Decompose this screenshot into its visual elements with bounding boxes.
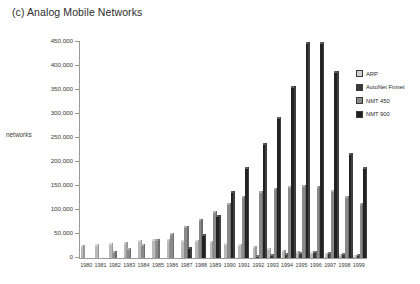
bar: [288, 188, 291, 258]
bar: [195, 242, 198, 258]
x-axis-label: 1996: [310, 262, 322, 268]
y-axis-title: networks: [6, 131, 32, 138]
bar: [199, 221, 202, 258]
bar: [342, 255, 345, 258]
legend-label: AutoNet Finnet: [366, 84, 405, 90]
x-axis-label: 1986: [166, 262, 178, 268]
bar: [320, 44, 323, 258]
x-axis-label: 1981: [95, 262, 107, 268]
bar: [349, 155, 352, 258]
bar-group: [95, 42, 98, 258]
x-axis-label: 1985: [152, 262, 164, 268]
bar: [224, 245, 227, 258]
bar-group: [325, 42, 338, 258]
bar: [141, 246, 144, 258]
bar: [95, 246, 98, 258]
x-axis-label: 1992: [252, 262, 264, 268]
bar: [267, 250, 270, 258]
y-tick-label: 150,000: [51, 181, 73, 188]
bar-group: [224, 42, 234, 258]
bar: [282, 252, 285, 258]
bar: [317, 188, 320, 258]
bar: [242, 198, 245, 258]
bar: [299, 254, 302, 258]
bar-group: [267, 42, 280, 258]
y-tick-label: 300,000: [51, 109, 73, 116]
bar: [302, 187, 305, 258]
bar: [170, 235, 173, 258]
bar: [213, 213, 216, 258]
legend-swatch-icon: [356, 70, 363, 77]
y-tick-label: 100,000: [51, 205, 73, 212]
chart-title: (c) Analog Mobile Networks: [12, 6, 142, 18]
chart-figure: (c) Analog Mobile Networks networks 450,…: [0, 0, 420, 284]
x-axis-label: 1989: [209, 262, 221, 268]
bar: [184, 228, 187, 258]
legend-label: NMT 450: [366, 98, 390, 104]
bar: [325, 255, 328, 258]
bar: [270, 256, 273, 258]
x-axis-label: 1980: [80, 262, 92, 268]
bar-group: [81, 42, 84, 258]
bar: [296, 253, 299, 258]
bar: [124, 244, 127, 258]
bar: [238, 246, 241, 258]
bar: [181, 242, 184, 258]
bar: [109, 245, 112, 258]
bar-group: [296, 42, 309, 258]
chart-legend: ARPAutoNet FinnetNMT 450NMT 900: [356, 70, 405, 118]
bar: [334, 73, 337, 258]
x-axis-label: 1982: [109, 262, 121, 268]
bar: [156, 241, 159, 258]
bar: [285, 255, 288, 258]
bar-group: [195, 42, 205, 258]
bar-group: [238, 42, 248, 258]
bar: [310, 254, 313, 258]
bar-group: [282, 42, 295, 258]
y-tick-label: 250,000: [51, 133, 73, 140]
bar: [363, 169, 366, 258]
bar: [227, 205, 230, 258]
x-axis-label: 1983: [123, 262, 135, 268]
bar: [231, 193, 234, 258]
legend-item[interactable]: ARP: [356, 70, 405, 77]
bar: [263, 145, 266, 258]
bar: [253, 248, 256, 258]
plot-area: [79, 42, 366, 258]
bar: [202, 236, 205, 258]
x-axis-label: 1995: [295, 262, 307, 268]
bar-group: [339, 42, 352, 258]
legend-item[interactable]: AutoNet Finnet: [356, 84, 405, 91]
y-tick-label: 50,000: [54, 229, 73, 236]
bar: [113, 253, 116, 258]
bar: [328, 254, 331, 258]
bar-group: [167, 42, 174, 258]
x-axis-label: 1994: [281, 262, 293, 268]
bar: [339, 256, 342, 258]
y-tick-label: 350,000: [51, 85, 73, 92]
bar: [357, 256, 360, 258]
x-axis-label: 1990: [224, 262, 236, 268]
legend-swatch-icon: [356, 111, 363, 118]
bar: [360, 205, 363, 258]
x-axis-label: 1997: [324, 262, 336, 268]
legend-item[interactable]: NMT 450: [356, 97, 405, 104]
bar: [353, 257, 356, 258]
bar-group: [310, 42, 323, 258]
bar: [256, 257, 259, 258]
bar: [274, 190, 277, 258]
x-axis-line: [79, 258, 367, 259]
x-axis-label: 1987: [181, 262, 193, 268]
legend-item[interactable]: NMT 900: [356, 111, 405, 118]
bar: [291, 88, 294, 258]
bar-group: [138, 42, 145, 258]
legend-label: NMT 900: [366, 111, 390, 117]
y-tick-label: 0: [70, 253, 73, 260]
y-tick-label: 200,000: [51, 157, 73, 164]
bar: [188, 249, 191, 258]
legend-swatch-icon: [356, 84, 363, 91]
y-tick-label: 450,000: [51, 37, 73, 44]
bar: [81, 247, 84, 258]
bar: [167, 241, 170, 258]
bar-group: [152, 42, 159, 258]
